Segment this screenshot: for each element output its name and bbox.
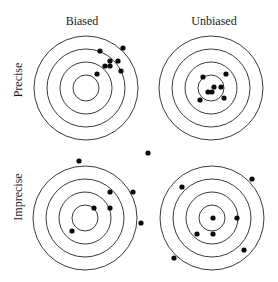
target-ring-3 — [185, 62, 237, 114]
target-ring-3 — [60, 62, 112, 114]
shot-dot — [130, 189, 135, 194]
shot-dot — [107, 205, 112, 210]
row-label-imprecise: Imprecise — [11, 173, 25, 220]
shot-dot — [194, 231, 199, 236]
column-label-unbiased: Unbiased — [191, 14, 236, 28]
shot-dot — [102, 63, 107, 68]
target-ring-1 — [33, 166, 137, 270]
shot-dot — [223, 71, 228, 76]
shot-dot — [118, 68, 123, 73]
shot-dot — [107, 189, 112, 194]
shot-dot — [179, 184, 184, 189]
target-ring-3 — [59, 192, 111, 244]
shot-dot — [211, 84, 216, 89]
shot-dot — [209, 89, 214, 94]
target-ring-2 — [172, 49, 250, 127]
bias-precision-diagram: Biased Unbiased Precise Imprecise — [0, 0, 278, 282]
target-precise-biased — [34, 36, 138, 140]
shot-dot — [210, 231, 215, 236]
column-label-biased: Biased — [66, 14, 99, 28]
target-ring-1 — [34, 36, 138, 140]
shot-dot — [234, 215, 239, 220]
shot-dot — [120, 45, 125, 50]
shot-dot — [241, 247, 246, 252]
shot-dot — [115, 58, 120, 63]
target-ring-1 — [159, 36, 263, 140]
target-precise-unbiased — [159, 36, 263, 140]
targets-layer — [33, 36, 264, 270]
shot-dot — [76, 158, 81, 163]
target-ring-4 — [73, 75, 99, 101]
shot-dot — [97, 48, 102, 53]
shot-dot — [218, 84, 223, 89]
target-imprecise-biased — [33, 150, 151, 270]
target-imprecise-unbiased — [160, 166, 264, 270]
shot-dot — [171, 255, 176, 260]
shot-dot — [94, 71, 99, 76]
shot-dot — [91, 205, 96, 210]
shot-dot — [145, 150, 150, 155]
shot-dot — [107, 63, 112, 68]
target-ring-2 — [46, 179, 124, 257]
shot-dot — [107, 58, 112, 63]
shot-dot — [249, 176, 254, 181]
shot-dot — [210, 215, 215, 220]
shot-dot — [200, 74, 205, 79]
row-label-precise: Precise — [11, 63, 25, 98]
shot-dot — [69, 228, 74, 233]
shot-dot — [221, 95, 226, 100]
shot-dot — [197, 97, 202, 102]
shot-dot — [138, 220, 143, 225]
target-ring-2 — [47, 49, 125, 127]
